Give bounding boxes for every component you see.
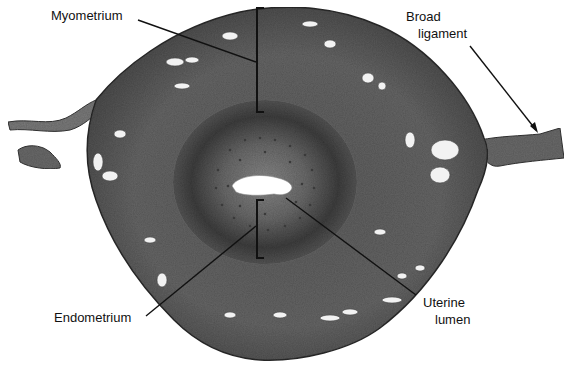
label-uterine-lumen-line2: lumen xyxy=(435,312,470,327)
right-broad-ligament xyxy=(480,128,564,166)
label-uterine-lumen-line1: Uterine xyxy=(423,295,465,310)
label-broad-ligament-line1: Broad xyxy=(406,9,441,24)
label-myometrium: Myometrium xyxy=(51,8,123,23)
uterus-cross-section-figure: Myometrium Broad ligament Endometrium Ut… xyxy=(0,0,571,367)
label-endometrium: Endometrium xyxy=(54,310,131,325)
label-broad-ligament-line2: ligament xyxy=(418,26,467,41)
